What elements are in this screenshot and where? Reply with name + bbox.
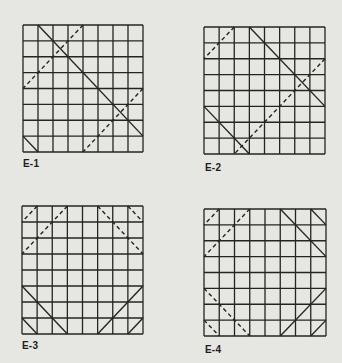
grid-e4 [204, 209, 326, 336]
solid-fold-line [280, 288, 326, 336]
solid-fold-line [249, 27, 325, 106]
grid-e2 [204, 27, 325, 154]
label-e3: E-3 [22, 340, 38, 351]
solid-fold-line [38, 25, 143, 136]
dashed-fold-line [204, 288, 250, 336]
grid-e1 [23, 25, 143, 152]
dashed-fold-line [98, 206, 143, 254]
solid-fold-line [204, 106, 249, 154]
solid-fold-line [128, 318, 143, 334]
solid-fold-line [98, 286, 143, 334]
dashed-fold-line [204, 209, 219, 225]
label-e2: E-2 [205, 162, 221, 173]
solid-fold-line [280, 209, 326, 257]
panel-e1 [23, 25, 143, 152]
label-e4: E-4 [205, 344, 221, 355]
panel-e4 [204, 209, 326, 336]
panel-e3 [22, 206, 143, 334]
solid-fold-line [311, 320, 326, 336]
solid-fold-line [23, 136, 38, 152]
dashed-fold-line [22, 206, 67, 254]
label-e1: E-1 [23, 158, 39, 169]
solid-fold-line [22, 318, 37, 334]
solid-fold-line [22, 286, 67, 334]
dashed-fold-line [204, 320, 219, 336]
solid-fold-line [311, 209, 326, 225]
dashed-fold-line [204, 209, 250, 257]
dashed-fold-line [22, 206, 37, 222]
panel-e2 [204, 27, 325, 154]
grid-e3 [22, 206, 143, 334]
dashed-fold-line [128, 206, 143, 222]
